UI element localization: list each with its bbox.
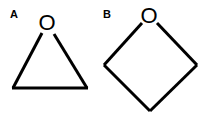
panel-b-bond-top-right xyxy=(157,23,197,65)
panel-b-oxygen-atom: O xyxy=(140,3,157,28)
panel-b-label: B xyxy=(103,8,111,20)
panel-a-oxygen-atom: O xyxy=(38,10,55,35)
panel-a-bond-left xyxy=(13,33,42,88)
structures-figure: A O B O xyxy=(0,0,206,118)
panel-a-bond-right xyxy=(54,34,87,88)
panel-b-bond-bottom-left xyxy=(104,65,150,111)
panel-a-label: A xyxy=(10,8,18,20)
panel-b: B O xyxy=(103,3,197,111)
panel-a: A O xyxy=(10,8,88,88)
panel-b-bond-top-left xyxy=(104,23,142,65)
panel-b-bond-bottom-right xyxy=(150,65,197,111)
